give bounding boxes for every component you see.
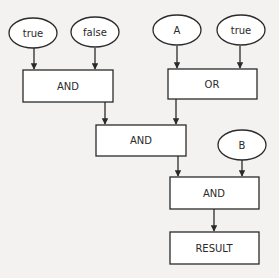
node-label: false <box>83 27 107 38</box>
node-true-1: true <box>9 18 57 48</box>
node-result: RESULT <box>170 232 259 264</box>
node-label: AND <box>203 188 225 199</box>
node-true-2: true <box>217 15 265 45</box>
node-label: A <box>174 25 181 36</box>
node-label: OR <box>205 79 220 90</box>
node-label: RESULT <box>195 243 233 254</box>
node-or: OR <box>168 69 257 99</box>
node-label: AND <box>57 81 79 92</box>
diagram-svg: true false A true AND OR AND B AND RESUL… <box>0 0 279 278</box>
node-false: false <box>71 17 119 47</box>
node-and-2: AND <box>96 125 186 156</box>
node-and-1: AND <box>23 70 113 102</box>
node-b: B <box>218 130 266 160</box>
node-a: A <box>153 15 201 45</box>
node-label: true <box>231 25 252 36</box>
node-label: AND <box>130 135 152 146</box>
node-and-3: AND <box>170 177 259 209</box>
logic-flowchart: true false A true AND OR AND B AND RESUL… <box>0 0 279 278</box>
node-label: true <box>23 28 44 39</box>
node-label: B <box>239 140 246 151</box>
